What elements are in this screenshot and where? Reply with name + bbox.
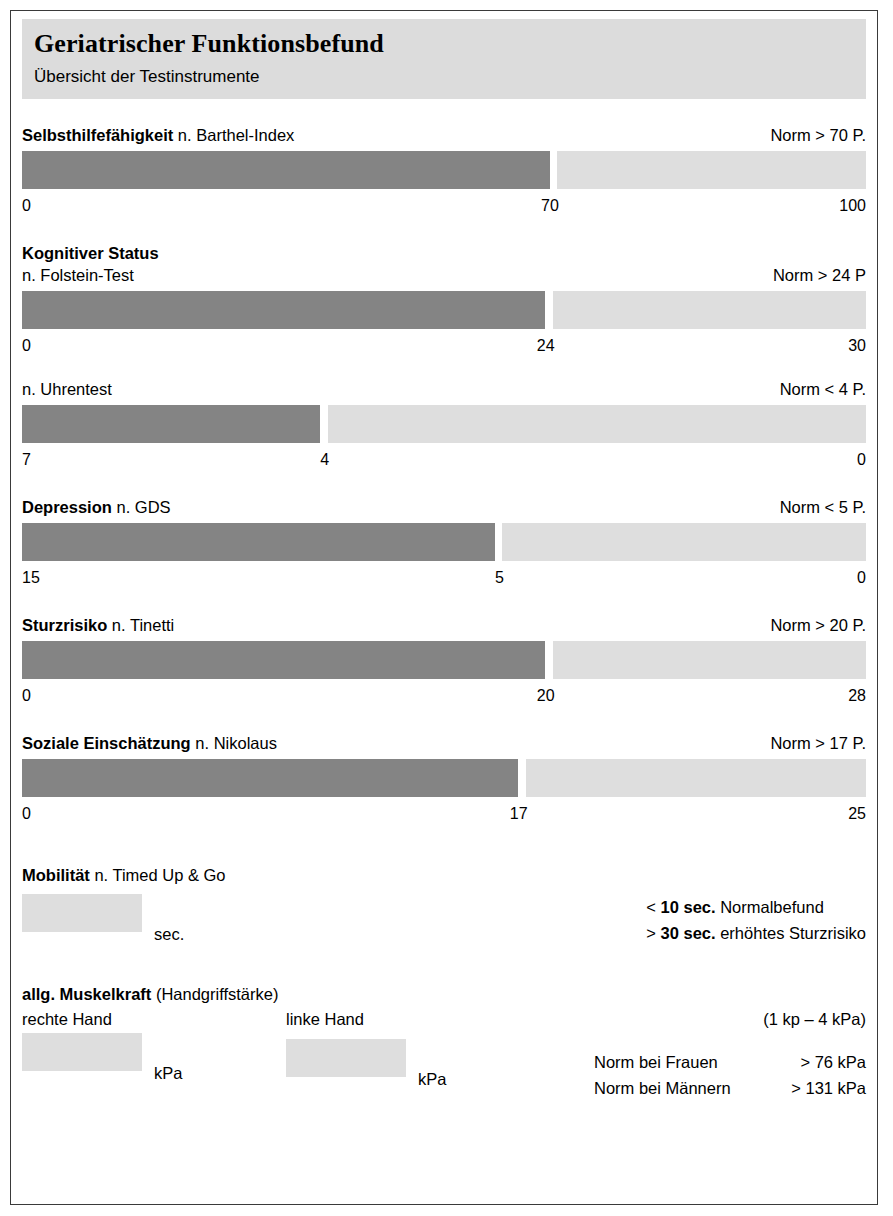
norm-row-women: Norm bei Frauen > 76 kPa — [594, 1049, 866, 1075]
depression-header: Depression n. GDS Norm < 5 P. — [22, 497, 866, 518]
muskelkraft-header: allg. Muskelkraft (Handgriffstärke) — [22, 984, 866, 1005]
norm-women-label: Norm bei Frauen — [594, 1049, 718, 1075]
page-title: Geriatrischer Funktionsbefund — [34, 29, 866, 59]
uhrentest-bar-empty — [328, 405, 866, 443]
barthel-tick-start: 0 — [22, 195, 31, 217]
mobilitaet-unit-label: sec. — [154, 924, 184, 945]
folstein-tick-mid: 24 — [537, 335, 555, 357]
note-normal-prefix: < — [646, 898, 660, 916]
sozial-norm: Norm > 17 P. — [770, 733, 866, 754]
note-risk-suffix: erhöhtes Sturzrisiko — [716, 924, 866, 942]
folstein-tick-end: 30 — [848, 335, 866, 357]
mobilitaet-seconds-input[interactable] — [22, 894, 142, 932]
barthel-scale: 0 70 100 — [22, 195, 866, 217]
form-header-band: Geriatrischer Funktionsbefund Übersicht … — [22, 19, 866, 99]
uhrentest-norm: Norm < 4 P. — [780, 379, 866, 400]
mobilitaet-header: Mobilität n. Timed Up & Go — [22, 865, 866, 886]
mobilitaet-label-regular: n. Timed Up & Go — [90, 866, 226, 884]
sturzrisiko-scale: 0 20 28 — [22, 685, 866, 707]
sturzrisiko-header: Sturzrisiko n. Tinetti Norm > 20 P. — [22, 615, 866, 636]
cognitive-group-title: Kognitiver Status — [22, 243, 866, 264]
page-subtitle: Übersicht der Testinstrumente — [34, 67, 866, 87]
folstein-norm: Norm > 24 P — [773, 265, 866, 286]
folstein-label-regular: n. Folstein-Test — [22, 266, 134, 284]
right-hand-unit-label: kPa — [154, 1063, 182, 1084]
depression-norm: Norm < 5 P. — [780, 497, 866, 518]
section-soziale-einschaetzung: Soziale Einschätzung n. Nikolaus Norm > … — [22, 733, 866, 825]
barthel-header: Selbsthilfefähigkeit n. Barthel-Index No… — [22, 125, 866, 146]
sturzrisiko-norm: Norm > 20 P. — [770, 615, 866, 636]
muskelkraft-norm-table: Norm bei Frauen > 76 kPa Norm bei Männer… — [594, 1049, 866, 1101]
sozial-label-bold: Soziale Einschätzung — [22, 734, 191, 752]
norm-men-value: > 131 kPa — [791, 1075, 866, 1101]
mobilitaet-label-bold: Mobilität — [22, 866, 90, 884]
note-normal-suffix: Normalbefund — [716, 898, 824, 916]
sozial-bar-filled — [22, 759, 518, 797]
uhrentest-label-regular: n. Uhrentest — [22, 380, 112, 398]
sturzrisiko-label-bold: Sturzrisiko — [22, 616, 107, 634]
kpa-conversion-note: (1 kp – 4 kPa) — [763, 1009, 866, 1030]
muskelkraft-label-regular: (Handgriffstärke) — [151, 985, 278, 1003]
section-depression: Depression n. GDS Norm < 5 P. 15 5 0 — [22, 497, 866, 589]
left-hand-unit-label: kPa — [418, 1069, 446, 1090]
mobilitaet-body: sec. < 10 sec. Normalbefund > 30 sec. er… — [22, 894, 866, 950]
assessment-form-sheet: Geriatrischer Funktionsbefund Übersicht … — [10, 10, 878, 1205]
uhrentest-bar-filled — [22, 405, 320, 443]
sturzrisiko-label-regular: n. Tinetti — [107, 616, 174, 634]
depression-bar-empty — [502, 523, 866, 561]
folstein-bar-empty — [553, 291, 866, 329]
section-mobilitaet: Mobilität n. Timed Up & Go sec. < 10 sec… — [22, 865, 866, 950]
uhrentest-tick-end: 0 — [857, 449, 866, 471]
sozial-tick-mid: 17 — [510, 803, 528, 825]
left-hand-kpa-input[interactable] — [286, 1039, 406, 1077]
norm-women-value: > 76 kPa — [800, 1049, 866, 1075]
barthel-bar-empty — [557, 151, 866, 189]
folstein-bar-filled — [22, 291, 545, 329]
sozial-bar-empty — [526, 759, 866, 797]
barthel-label-bold: Selbsthilfefähigkeit — [22, 126, 173, 144]
depression-label-regular: n. GDS — [112, 498, 171, 516]
sturzrisiko-tick-end: 28 — [848, 685, 866, 707]
sturzrisiko-bar-empty — [553, 641, 866, 679]
depression-tick-start: 15 — [22, 567, 40, 589]
section-muskelkraft: allg. Muskelkraft (Handgriffstärke) rech… — [22, 984, 866, 1095]
mobilitaet-note-risk: > 30 sec. erhöhtes Sturzrisiko — [646, 920, 866, 946]
barthel-tick-end: 100 — [839, 195, 866, 217]
folstein-bar — [22, 291, 866, 329]
norm-row-men: Norm bei Männern > 131 kPa — [594, 1075, 866, 1101]
depression-tick-end: 0 — [857, 567, 866, 589]
barthel-tick-mid: 70 — [541, 195, 559, 217]
depression-label-bold: Depression — [22, 498, 112, 516]
depression-tick-mid: 5 — [495, 567, 504, 589]
sozial-bar — [22, 759, 866, 797]
sozial-label-regular: n. Nikolaus — [191, 734, 277, 752]
uhrentest-scale: 7 4 0 — [22, 449, 866, 471]
depression-scale: 15 5 0 — [22, 567, 866, 589]
sozial-tick-end: 25 — [848, 803, 866, 825]
sturzrisiko-tick-start: 0 — [22, 685, 31, 707]
right-hand-kpa-input[interactable] — [22, 1033, 142, 1071]
section-sturzrisiko: Sturzrisiko n. Tinetti Norm > 20 P. 0 20… — [22, 615, 866, 707]
note-risk-value: 30 sec. — [661, 924, 716, 942]
section-barthel: Selbsthilfefähigkeit n. Barthel-Index No… — [22, 125, 866, 217]
folstein-tick-start: 0 — [22, 335, 31, 357]
sturzrisiko-tick-mid: 20 — [537, 685, 555, 707]
barthel-bar-filled — [22, 151, 550, 189]
mobilitaet-note-normal: < 10 sec. Normalbefund — [646, 894, 866, 920]
folstein-scale: 0 24 30 — [22, 335, 866, 357]
uhrentest-tick-mid: 4 — [320, 449, 329, 471]
section-kognitiver-status: Kognitiver Status n. Folstein-Test Norm … — [22, 243, 866, 357]
depression-bar — [22, 523, 866, 561]
sozial-tick-start: 0 — [22, 803, 31, 825]
sozial-scale: 0 17 25 — [22, 803, 866, 825]
barthel-norm: Norm > 70 P. — [770, 125, 866, 146]
barthel-bar — [22, 151, 866, 189]
note-normal-value: 10 sec. — [661, 898, 716, 916]
mobilitaet-reference-notes: < 10 sec. Normalbefund > 30 sec. erhöhte… — [646, 894, 866, 946]
left-hand-label: linke Hand — [286, 1009, 364, 1030]
norm-men-label: Norm bei Männern — [594, 1075, 731, 1101]
uhrentest-bar — [22, 405, 866, 443]
barthel-label-regular: n. Barthel-Index — [173, 126, 294, 144]
sturzrisiko-bar — [22, 641, 866, 679]
sozial-header: Soziale Einschätzung n. Nikolaus Norm > … — [22, 733, 866, 754]
